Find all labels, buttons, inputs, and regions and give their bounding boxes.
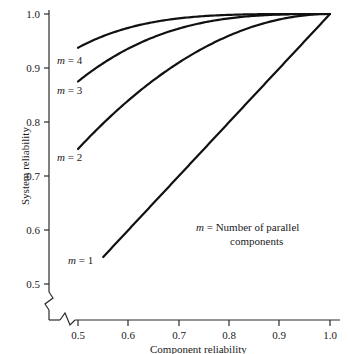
- y-tick-label-0.6: 0.6: [10, 225, 40, 236]
- x-tick-label-0.6: 0.6: [113, 330, 143, 341]
- legend-note-line1: = Number of parallel: [207, 221, 300, 233]
- curve-label-m-4-symbol: m: [57, 54, 65, 66]
- y-axis-break-zigzag: [45, 292, 53, 310]
- curve-label-m-4-text: = 4: [68, 54, 82, 66]
- curve-label-m-2-text: = 2: [68, 151, 82, 163]
- curve-label-m-2: m = 2: [57, 152, 82, 163]
- y-tick-label-0.9: 0.9: [10, 63, 40, 74]
- curve-label-m-4: m = 4: [57, 55, 82, 66]
- x-tick-marks: [78, 320, 330, 326]
- curve-label-m-1: m = 1: [68, 255, 93, 266]
- y-tick-marks: [44, 14, 49, 284]
- plot-area: [0, 0, 349, 354]
- curve-label-m-1-symbol: m: [68, 254, 76, 266]
- y-axis-title: System reliability: [20, 127, 31, 205]
- y-tick-label-1.0: 1.0: [10, 9, 40, 20]
- x-tick-label-0.8: 0.8: [214, 330, 244, 341]
- curve-m-2: [78, 14, 330, 149]
- y-tick-label-0.5: 0.5: [10, 279, 40, 290]
- legend-note-line2: components: [196, 235, 299, 249]
- curve-label-m-3: m = 3: [57, 85, 82, 96]
- curve-m-4: [78, 14, 330, 48]
- x-tick-label-1.0: 1.0: [315, 330, 345, 341]
- reliability-chart: 1.0 0.9 0.8 0.7 0.6 0.5 0.5 0.6 0.7 0.8 …: [0, 0, 349, 354]
- axes: [45, 10, 340, 325]
- x-axis-break-zigzag: [60, 313, 75, 325]
- curve-label-m-1-text: = 1: [79, 254, 93, 266]
- legend-note: m = Number of parallel components: [196, 221, 299, 249]
- x-tick-label-0.9: 0.9: [264, 330, 294, 341]
- curve-label-m-3-symbol: m: [57, 84, 65, 96]
- curve-label-m-2-symbol: m: [57, 151, 65, 163]
- curve-label-m-3-text: = 3: [68, 84, 82, 96]
- x-tick-label-0.7: 0.7: [164, 330, 194, 341]
- legend-note-symbol: m: [196, 221, 204, 233]
- x-tick-label-0.5: 0.5: [63, 330, 93, 341]
- x-axis-title: Component reliability: [150, 344, 247, 354]
